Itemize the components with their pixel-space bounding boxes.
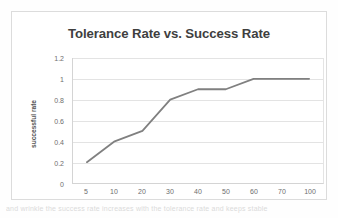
document-caption-text: and wrinkle the success rate increases w… <box>6 205 332 214</box>
chart-container: Tolerance Rate vs. Success Rate successf… <box>11 11 327 200</box>
x-axis-tick-labels: 510203040506070100 <box>72 188 324 202</box>
x-axis-tick-label: 40 <box>194 188 202 195</box>
x-axis-tick-label: 5 <box>84 188 88 195</box>
x-axis-tick-label: 100 <box>304 188 316 195</box>
y-axis-tick-label: 0 <box>60 181 64 188</box>
y-axis-tick-labels: 00.20.40.60.811.2 <box>40 58 68 184</box>
x-axis-tick-label: 10 <box>110 188 118 195</box>
y-axis-tick-label: 0.4 <box>54 139 64 146</box>
x-axis-tick-label: 60 <box>250 188 258 195</box>
y-axis-title: successful rate <box>28 84 40 164</box>
chart-title: Tolerance Rate vs. Success Rate <box>12 26 326 41</box>
document-page: Tolerance Rate vs. Success Rate successf… <box>0 0 338 218</box>
x-axis-tick-label: 20 <box>138 188 146 195</box>
y-axis-tick-label: 1 <box>60 76 64 83</box>
y-axis-tick-label: 0.6 <box>54 118 64 125</box>
line-series-successful-rate <box>73 58 323 183</box>
y-axis-tick-label: 0.8 <box>54 97 64 104</box>
y-axis-tick-label: 1.2 <box>54 55 64 62</box>
y-axis-tick-label: 0.2 <box>54 160 64 167</box>
x-axis-tick-label: 30 <box>166 188 174 195</box>
x-axis-tick-label: 70 <box>278 188 286 195</box>
plot-area <box>72 58 324 184</box>
x-axis-tick-label: 50 <box>222 188 230 195</box>
